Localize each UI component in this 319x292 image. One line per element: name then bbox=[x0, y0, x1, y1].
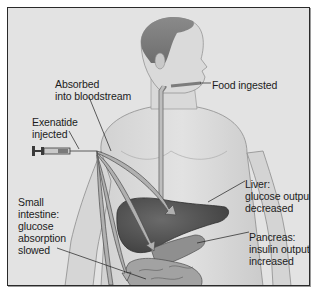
label-food-ingested: Food ingested bbox=[212, 79, 277, 91]
label-pancreas: Pancreas: insulin output increased bbox=[249, 231, 309, 267]
syringe-icon bbox=[32, 146, 97, 156]
label-exenatide-injected: Exenatide injected bbox=[32, 116, 78, 140]
label-small-intestine: Small intestine: glucose absorption slow… bbox=[18, 196, 66, 256]
label-absorbed: Absorbed into bloodstream bbox=[55, 78, 131, 102]
label-liver: Liver: glucose output decreased bbox=[245, 178, 310, 214]
diagram-frame: Absorbed into bloodstream Food ingested … bbox=[7, 7, 310, 286]
